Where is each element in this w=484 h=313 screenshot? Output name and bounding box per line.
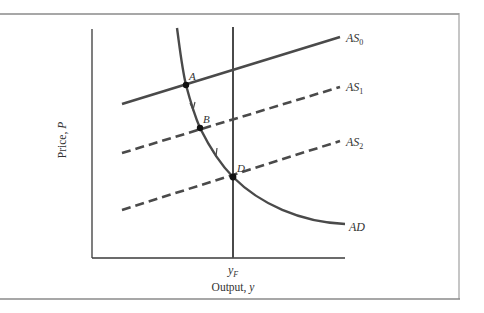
as1-curve xyxy=(122,87,340,153)
point-b-label: B xyxy=(203,113,210,125)
point-d-label: D xyxy=(236,162,245,174)
point-a-label: A xyxy=(188,70,196,82)
x-tick-yf: yF xyxy=(227,263,238,279)
as0-curve xyxy=(122,37,340,104)
ad-label: AD xyxy=(348,220,365,234)
x-axis-title: Output, y xyxy=(212,281,256,294)
as2-label: AS2 xyxy=(345,135,363,151)
as1-label: AS1 xyxy=(345,80,363,96)
as0-label: AS0 xyxy=(345,31,363,47)
as-ad-diagram: A B D AS0 AS1 AS2 AD yF Output, y Price,… xyxy=(0,0,484,313)
point-a-marker xyxy=(183,82,189,88)
point-d-marker xyxy=(230,174,237,181)
point-b-marker xyxy=(197,125,203,131)
y-axis-title: Price, P xyxy=(56,122,69,158)
